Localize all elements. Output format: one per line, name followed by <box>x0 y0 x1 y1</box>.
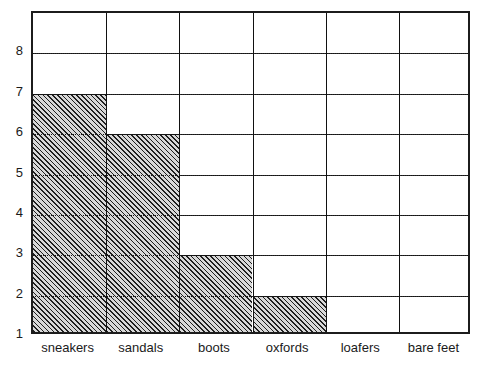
y-tick-label: 3 <box>1 246 23 259</box>
x-tick-label-sneakers: sneakers <box>31 340 104 356</box>
x-tick-label-bare-feet: bare feet <box>397 340 470 356</box>
x-axis: sneakerssandalsbootsoxfordsloafersbare f… <box>31 340 470 364</box>
y-tick-label: 7 <box>1 85 23 98</box>
y-tick-label: 2 <box>1 287 23 300</box>
y-axis: 12345678 <box>0 0 31 372</box>
bar-series <box>33 13 470 334</box>
bar-boots <box>179 255 252 334</box>
y-tick-label: 1 <box>1 327 23 340</box>
bar-sneakers <box>33 94 106 334</box>
x-tick-label-loafers: loafers <box>324 340 397 356</box>
y-tick-label: 5 <box>1 166 23 179</box>
grid-bar-chart: 12345678 sneakerssandalsbootsoxfordsloaf… <box>0 0 497 372</box>
y-tick-label: 6 <box>1 125 23 138</box>
x-tick-label-oxfords: oxfords <box>251 340 324 356</box>
x-tick-label-sandals: sandals <box>104 340 177 356</box>
bar-sandals <box>106 134 179 334</box>
y-tick-label: 8 <box>1 44 23 57</box>
plot-area <box>31 11 470 334</box>
bar-oxfords <box>253 296 326 334</box>
y-tick-label: 4 <box>1 206 23 219</box>
x-tick-label-boots: boots <box>177 340 250 356</box>
